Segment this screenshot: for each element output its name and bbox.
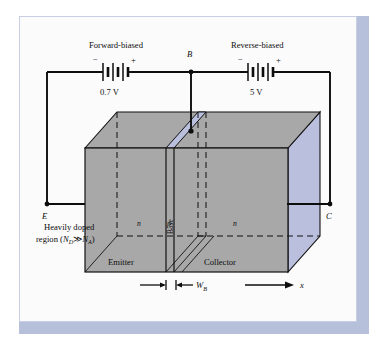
right-battery-plus-sign: + <box>276 55 281 65</box>
base-vertical-label: Base <box>166 219 175 234</box>
node-dot-base-contact <box>188 128 193 133</box>
terminal-label-emitter: E <box>41 211 48 221</box>
wb-subscript: B <box>203 285 207 292</box>
battery-right-symbol <box>246 63 276 81</box>
heavily-doped-suffix: ) <box>92 234 95 244</box>
heavily-doped-line2: region (ND≫NA) <box>36 234 95 245</box>
left-battery-minus-sign: − <box>93 54 98 64</box>
reverse-biased-caption: Reverse-biased <box>231 40 284 50</box>
battery-left-symbol <box>101 63 131 81</box>
region-label-n-emitter: n <box>137 219 141 228</box>
node-dot-base <box>189 70 194 75</box>
right-battery-minus-sign: − <box>238 54 243 64</box>
left-battery-voltage: 0.7 V <box>100 87 120 97</box>
region-label-n-collector: n <box>233 219 237 228</box>
collector-region-label: Collector <box>204 257 236 267</box>
wb-dimension <box>140 280 193 290</box>
much-greater-sign: ≫ <box>73 234 82 244</box>
x-axis-label: x <box>299 280 304 290</box>
figure-root: Forward-biased Reverse-biased − + 0.7 V … <box>0 0 382 350</box>
node-dot-emitter <box>45 202 50 207</box>
emitter-region-label: Emitter <box>108 257 134 267</box>
wb-label: WB <box>196 280 207 292</box>
x-axis-arrow <box>245 281 294 288</box>
diagram-canvas: Forward-biased Reverse-biased − + 0.7 V … <box>0 0 382 350</box>
left-battery-plus-sign: + <box>131 55 136 65</box>
heavily-doped-line1: Heavily doped <box>44 222 95 232</box>
block-front-face <box>85 148 288 272</box>
terminal-label-collector: C <box>326 211 332 221</box>
right-battery-voltage: 5 V <box>250 87 263 97</box>
terminal-label-base: B <box>187 49 193 59</box>
heavily-doped-prefix: region ( <box>36 234 63 244</box>
block-top-face <box>85 112 320 148</box>
node-dot-collector <box>328 202 333 207</box>
forward-biased-caption: Forward-biased <box>89 40 144 50</box>
